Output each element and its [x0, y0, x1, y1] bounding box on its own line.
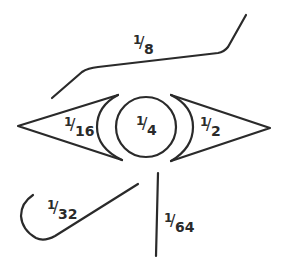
right-crescent-shape — [171, 95, 193, 161]
denominator: 16 — [75, 124, 94, 138]
curl-shape — [21, 184, 138, 240]
denominator: 8 — [144, 42, 154, 56]
left-crescent-shape — [97, 95, 122, 160]
vertical-stroke-shape — [156, 173, 158, 256]
denominator: 32 — [58, 207, 77, 221]
denominator: 4 — [147, 123, 157, 137]
denominator: 2 — [211, 124, 221, 138]
denominator: 64 — [175, 220, 194, 234]
